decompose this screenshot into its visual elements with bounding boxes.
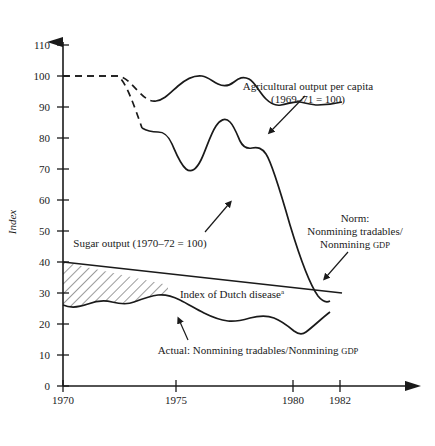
annotation-line: (1969–71 = 100) — [271, 93, 345, 106]
annotation-arrows — [180, 96, 348, 340]
norm-arrow — [327, 252, 348, 276]
y-tick-label: 60 — [39, 194, 51, 206]
dutch-disease-footnote-marker: a — [281, 288, 285, 296]
y-tick-label: 70 — [39, 163, 51, 175]
y-tick-label: 50 — [39, 225, 51, 237]
y-tick-label: 80 — [39, 132, 51, 144]
y-axis-title: Index — [6, 210, 18, 236]
y-tick-labels: 110 100 90 80 70 60 50 40 30 20 10 0 — [34, 39, 51, 392]
annotation-line: Nonmining GDP — [320, 238, 390, 250]
dutch-disease-text: Index of Dutch disease — [180, 288, 281, 300]
x-tick-label: 1975 — [165, 394, 188, 406]
y-tick-label: 110 — [34, 39, 51, 51]
series-actual-line — [63, 295, 330, 334]
norm-line3-text: Nonmining — [320, 238, 373, 250]
x-axis — [63, 380, 405, 392]
x-tick-label: 1970 — [52, 394, 75, 406]
agricultural-dashed-segment — [63, 76, 156, 101]
annotation-dutch-disease: Index of Dutch diseasea — [180, 288, 285, 300]
actual-smallcaps: GDP — [341, 346, 358, 356]
dutch-disease-shaded-region — [63, 262, 168, 307]
series-sugar-output — [63, 76, 330, 302]
annotation-agricultural-output: Agricultural output per capita (1969–71 … — [243, 80, 374, 106]
y-tick-label: 30 — [39, 287, 51, 299]
chart-svg: 110 100 90 80 70 60 50 40 30 20 10 0 197… — [0, 0, 435, 446]
x-tick-labels: 1970 1975 1980 1982 — [52, 394, 351, 406]
y-axis — [57, 42, 69, 386]
y-tick-label: 90 — [39, 101, 51, 113]
y-tick-label: 10 — [39, 349, 51, 361]
sugar-arrow — [205, 205, 228, 232]
norm-line3-smallcaps: GDP — [373, 240, 390, 250]
annotation-actual-line: Actual: Nonmining tradables/Nonmining GD… — [158, 344, 359, 356]
chart-figure: 110 100 90 80 70 60 50 40 30 20 10 0 197… — [0, 0, 435, 446]
annotation-line: Norm: — [341, 212, 370, 224]
annotation-line: Agricultural output per capita — [243, 80, 374, 92]
y-tick-label: 0 — [45, 380, 51, 392]
sugar-dashed-segment — [63, 76, 142, 128]
y-tick-label: 40 — [39, 256, 51, 268]
annotation-line: Nonmining tradables/ — [307, 225, 404, 237]
annotation-sugar-output: Sugar output (1970–72 = 100) — [73, 237, 207, 250]
x-tick-label: 1980 — [282, 394, 305, 406]
actual-arrow — [180, 322, 188, 340]
y-tick-label: 100 — [34, 70, 51, 82]
actual-text: Actual: Nonmining tradables/Nonmining — [158, 344, 342, 356]
annotation-norm: Norm: Nonmining tradables/ Nonmining GDP — [307, 212, 404, 250]
y-tick-label: 20 — [39, 318, 51, 330]
x-tick-label: 1982 — [329, 394, 351, 406]
